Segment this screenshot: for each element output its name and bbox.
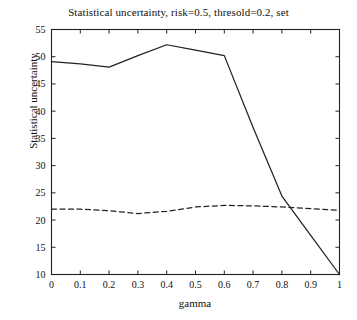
y-tick-label: 10	[36, 269, 46, 280]
x-tick-label: 0.8	[276, 279, 289, 290]
chart-figure: Statistical uncertainty, risk=0.5, thres…	[0, 0, 357, 320]
x-tick-label: 1	[337, 279, 342, 290]
x-axis-label: gamma	[51, 297, 339, 309]
y-axis-ticks: 10152025303540455055	[36, 24, 340, 280]
x-tick-label: 0.3	[132, 279, 145, 290]
y-tick-label: 20	[36, 215, 46, 226]
x-tick-label: 0.9	[304, 279, 317, 290]
plot-frame	[52, 30, 340, 275]
series-line-dashed-curve	[52, 205, 340, 213]
x-tick-label: 0.4	[160, 279, 173, 290]
data-series-layer	[52, 45, 340, 275]
y-axis-label: Statistical uncertainty	[27, 6, 39, 196]
x-tick-label: 0.5	[189, 279, 202, 290]
x-tick-label: 0.2	[103, 279, 116, 290]
x-tick-label: 0.7	[247, 279, 260, 290]
x-tick-label: 0	[49, 279, 54, 290]
x-axis-ticks: 00.10.20.30.40.50.60.70.80.91	[49, 30, 342, 290]
y-tick-label: 15	[36, 242, 46, 253]
series-line-solid-curve	[52, 45, 340, 275]
plot-area: 10152025303540455055 00.10.20.30.40.50.6…	[0, 0, 357, 320]
x-tick-label: 0.1	[74, 279, 87, 290]
x-tick-label: 0.6	[218, 279, 231, 290]
